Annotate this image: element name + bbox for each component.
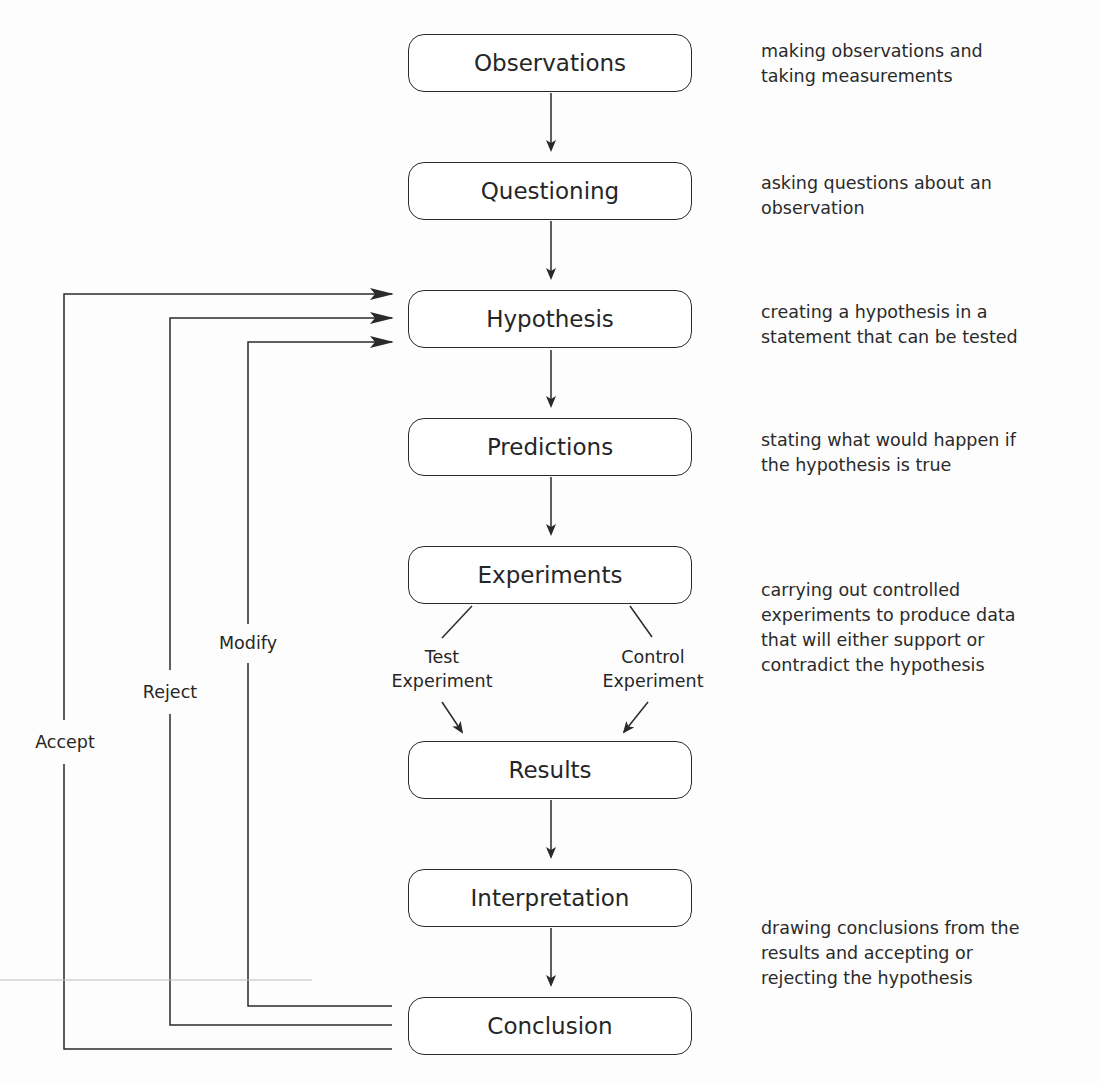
- description-questioning: asking questions about an observation: [761, 171, 992, 221]
- arrow-test-results: [442, 702, 462, 732]
- step-hypothesis: Hypothesis: [408, 290, 692, 348]
- branch-label-test: Test Experiment: [372, 645, 512, 693]
- step-label: Results: [508, 757, 591, 783]
- arrow-control-results: [624, 702, 648, 732]
- step-results: Results: [408, 741, 692, 799]
- branch-label-control: Control Experiment: [578, 645, 728, 693]
- description-observations: making observations and taking measureme…: [761, 39, 983, 89]
- feedback-label-reject: Reject: [130, 680, 210, 704]
- branch-line-test: [442, 606, 472, 638]
- step-predictions: Predictions: [408, 418, 692, 476]
- step-label: Interpretation: [471, 885, 630, 911]
- step-label: Experiments: [478, 562, 623, 588]
- feedback-label-modify: Modify: [208, 631, 288, 655]
- step-label: Hypothesis: [486, 306, 614, 332]
- description-experiments: carrying out controlled experiments to p…: [761, 578, 1016, 678]
- step-label: Predictions: [487, 434, 613, 460]
- feedback-label-accept: Accept: [24, 730, 106, 754]
- step-interpretation: Interpretation: [408, 869, 692, 927]
- description-hypothesis: creating a hypothesis in a statement tha…: [761, 300, 1018, 350]
- step-label: Observations: [474, 50, 626, 76]
- description-interpretation: drawing conclusions from the results and…: [761, 916, 1019, 991]
- step-label: Questioning: [481, 178, 619, 204]
- step-questioning: Questioning: [408, 162, 692, 220]
- step-experiments: Experiments: [408, 546, 692, 604]
- step-conclusion: Conclusion: [408, 997, 692, 1055]
- step-observations: Observations: [408, 34, 692, 92]
- step-label: Conclusion: [487, 1013, 612, 1039]
- description-predictions: stating what would happen if the hypothe…: [761, 428, 1016, 478]
